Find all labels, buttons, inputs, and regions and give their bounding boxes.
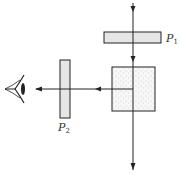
arrowhead-bottom-icon bbox=[131, 163, 136, 170]
arrowhead-horizontal-mid-icon bbox=[95, 87, 101, 92]
eye-icon bbox=[5, 75, 25, 103]
arrowhead-left-icon bbox=[35, 87, 42, 92]
optics-diagram: P1 P2 bbox=[0, 0, 180, 176]
arrowhead-top-icon bbox=[131, 6, 136, 12]
p2-label: P2 bbox=[57, 121, 70, 135]
p1-label: P1 bbox=[165, 32, 178, 46]
arrowhead-mid-icon bbox=[131, 56, 136, 62]
